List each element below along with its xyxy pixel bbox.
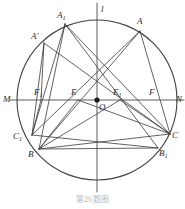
figure-caption: 第26题图 xyxy=(0,193,185,204)
point-label-C1: C1 xyxy=(13,132,22,141)
segment-B-E xyxy=(39,100,78,149)
geometry-figure: A1AA'MNF1EE1FOC1CBB1 l 第26题图 xyxy=(0,0,185,209)
point-label-C: C xyxy=(172,131,178,140)
point-label-A1: A1 xyxy=(57,11,66,20)
segment-B-B1 xyxy=(39,148,158,149)
segment-B-E1 xyxy=(39,100,120,149)
segment-A1-B1 xyxy=(65,24,158,148)
segment-A-B xyxy=(39,31,140,149)
point-label-F1: F1 xyxy=(34,88,43,97)
segment-F1-C1 xyxy=(32,100,41,135)
segment-B-C xyxy=(39,134,170,149)
point-label-A: A xyxy=(137,17,143,26)
segment-A-C1 xyxy=(32,31,140,135)
point-label-E: E xyxy=(71,88,77,97)
point-label-B1: B1 xyxy=(159,149,168,158)
point-label-E1: E1 xyxy=(113,88,122,97)
point-label-N: N xyxy=(176,95,182,104)
segment-C-E1 xyxy=(120,100,170,134)
point-label-B: B xyxy=(28,150,34,159)
segment-A1-B xyxy=(39,24,65,149)
line-l-label: l xyxy=(101,5,104,14)
geometry-canvas xyxy=(0,0,185,209)
point-label-M: M xyxy=(3,95,11,104)
point-label-Ap: A' xyxy=(31,32,38,41)
point-label-O: O xyxy=(99,103,106,112)
point-label-F: F xyxy=(149,88,155,97)
